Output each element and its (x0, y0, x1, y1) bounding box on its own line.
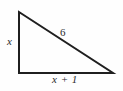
label-leg-vertical: x (7, 36, 12, 47)
label-leg-horizontal: x + 1 (52, 74, 78, 85)
label-hypotenuse: 6 (60, 27, 66, 38)
triangle-outline (19, 12, 113, 73)
right-triangle-figure: x 6 x + 1 (0, 0, 123, 91)
